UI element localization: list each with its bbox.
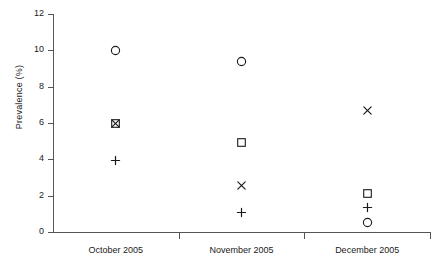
data-point-plus [362,202,373,213]
x-axis-label: November 2005 [177,245,307,255]
x-tick-mark [179,233,180,239]
data-point-circle [236,56,247,67]
y-axis-title: Prevalence (%) [14,42,24,152]
data-point-x [362,105,373,116]
plot-area [53,14,430,232]
x-tick-mark [430,233,431,239]
data-point-x [236,180,247,191]
scatter-chart: Prevalence (%) 024681012 October 2005Nov… [0,0,435,269]
y-tick-label: 2 [14,191,44,200]
data-point-square [362,188,373,199]
x-axis-label: December 2005 [302,245,432,255]
data-point-x [110,118,121,129]
data-point-circle [110,45,121,56]
x-axis-line [53,232,431,233]
y-tick-label: 4 [14,154,44,163]
y-tick-label: 10 [14,45,44,54]
y-tick-mark [48,232,53,233]
y-tick-label: 12 [14,9,44,18]
data-point-plus [236,207,247,218]
x-axis-label: October 2005 [51,245,181,255]
data-point-circle [362,217,373,228]
y-tick-label: 8 [14,82,44,91]
data-point-plus [110,155,121,166]
y-tick-label: 0 [14,227,44,236]
y-tick-label: 6 [14,118,44,127]
data-point-square [236,137,247,148]
x-tick-mark [304,233,305,239]
